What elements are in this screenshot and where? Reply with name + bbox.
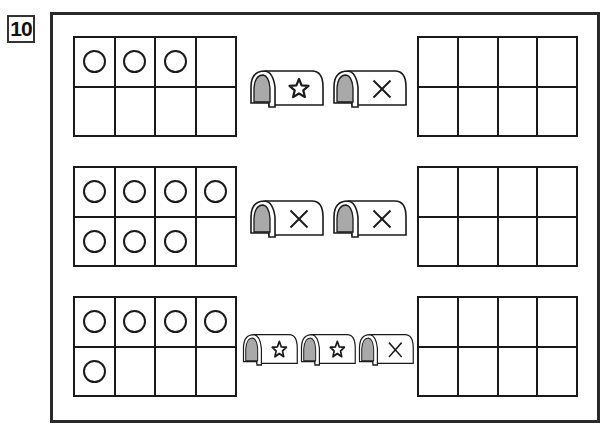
circle-counter-icon <box>83 230 106 253</box>
ten-frame-cell <box>196 37 237 87</box>
ten-frame-cell <box>115 167 156 217</box>
answer-cell[interactable] <box>418 37 458 87</box>
input-ten-frame <box>73 166 237 267</box>
answer-cell[interactable] <box>537 167 577 217</box>
problem-number: 10 <box>7 15 35 43</box>
answer-cell[interactable] <box>498 87 538 137</box>
answer-cell[interactable] <box>537 37 577 87</box>
ten-frame-cell <box>74 297 115 347</box>
answer-cell[interactable] <box>458 297 498 347</box>
ten-frame-cell <box>115 347 156 397</box>
answer-cell[interactable] <box>458 217 498 267</box>
answer-cell[interactable] <box>418 297 458 347</box>
ten-frame-cell <box>115 217 156 267</box>
tunnel-star-machine <box>300 333 356 365</box>
circle-counter-icon <box>123 310 146 333</box>
tunnel-cross-machine <box>249 199 324 237</box>
ten-frame-cell <box>196 297 237 347</box>
circle-counter-icon <box>164 310 187 333</box>
circle-counter-icon <box>83 180 106 203</box>
circle-counter-icon <box>83 50 106 73</box>
circle-counter-icon <box>204 310 227 333</box>
ten-frame-cell <box>74 347 115 397</box>
answer-cell[interactable] <box>537 297 577 347</box>
ten-frame-cell <box>155 167 196 217</box>
circle-counter-icon <box>164 180 187 203</box>
answer-cell[interactable] <box>418 347 458 397</box>
answer-cell[interactable] <box>498 217 538 267</box>
ten-frame-cell <box>196 87 237 137</box>
ten-frame-cell <box>155 217 196 267</box>
circle-counter-icon <box>83 360 106 383</box>
circle-counter-icon <box>123 230 146 253</box>
answer-cell[interactable] <box>537 87 577 137</box>
answer-cell[interactable] <box>498 347 538 397</box>
answer-cell[interactable] <box>418 217 458 267</box>
circle-counter-icon <box>83 310 106 333</box>
ten-frame-cell <box>74 217 115 267</box>
ten-frame-cell <box>74 37 115 87</box>
input-ten-frame <box>73 296 237 397</box>
answer-ten-frame[interactable] <box>417 166 578 267</box>
circle-counter-icon <box>204 180 227 203</box>
answer-cell[interactable] <box>458 87 498 137</box>
ten-frame-cell <box>115 87 156 137</box>
ten-frame-cell <box>155 297 196 347</box>
answer-cell[interactable] <box>498 167 538 217</box>
answer-cell[interactable] <box>537 347 577 397</box>
answer-cell[interactable] <box>498 297 538 347</box>
circle-counter-icon <box>164 50 187 73</box>
tunnel-star-machine <box>242 333 298 365</box>
ten-frame-cell <box>74 167 115 217</box>
answer-cell[interactable] <box>418 87 458 137</box>
ten-frame-cell <box>196 347 237 397</box>
ten-frame-cell <box>196 217 237 267</box>
answer-cell[interactable] <box>498 37 538 87</box>
ten-frame-cell <box>115 37 156 87</box>
answer-cell[interactable] <box>458 167 498 217</box>
ten-frame-cell <box>115 297 156 347</box>
ten-frame-cell <box>155 87 196 137</box>
answer-cell[interactable] <box>458 347 498 397</box>
ten-frame-cell <box>74 87 115 137</box>
tunnel-cross-machine <box>332 199 407 237</box>
answer-ten-frame[interactable] <box>417 296 578 397</box>
tunnel-cross-machine <box>358 333 414 365</box>
ten-frame-cell <box>155 347 196 397</box>
circle-counter-icon <box>164 230 187 253</box>
tunnel-star-machine <box>249 69 324 107</box>
tunnel-cross-machine <box>332 69 407 107</box>
answer-cell[interactable] <box>537 217 577 267</box>
circle-counter-icon <box>123 180 146 203</box>
circle-counter-icon <box>123 50 146 73</box>
ten-frame-cell <box>196 167 237 217</box>
input-ten-frame <box>73 36 237 137</box>
ten-frame-cell <box>155 37 196 87</box>
answer-ten-frame[interactable] <box>417 36 578 137</box>
answer-cell[interactable] <box>418 167 458 217</box>
answer-cell[interactable] <box>458 37 498 87</box>
